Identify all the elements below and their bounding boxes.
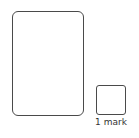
mark-box[interactable]: [96, 85, 126, 115]
answer-box[interactable]: [12, 11, 84, 116]
mark-label: 1 mark: [90, 116, 132, 128]
